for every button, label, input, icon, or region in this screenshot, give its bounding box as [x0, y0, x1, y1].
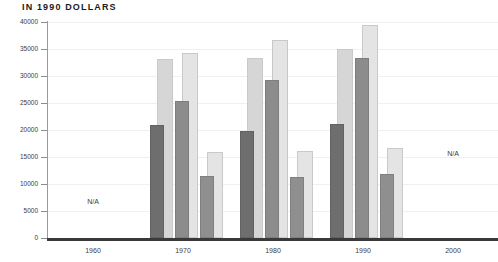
y-axis-tick-label: 35000 [0, 45, 38, 52]
chart-title: IN 1990 DOLLARS [22, 2, 117, 12]
bar-1980-pair-3-front [290, 177, 304, 238]
y-axis-tick-label: 0 [0, 234, 38, 241]
plot-area [48, 22, 498, 238]
na-label-1960: N/A [87, 198, 99, 205]
x-axis-label-1980: 1980 [265, 247, 281, 254]
bar-1980-pair-2-front [265, 80, 279, 238]
bar-1970-pair-3-front [200, 176, 214, 238]
x-axis-label-2000: 2000 [445, 247, 461, 254]
bar-1980-pair-1-front [240, 131, 254, 238]
bar-1970-pair-1-front [150, 125, 164, 238]
y-axis-tick-label: 40000 [0, 18, 38, 25]
na-label-2000: N/A [447, 150, 459, 157]
bar-1970-pair-2-front [175, 101, 189, 238]
y-axis-tick-label: 30000 [0, 72, 38, 79]
bar-1990-pair-1-front [330, 124, 344, 238]
x-axis-line [47, 238, 498, 241]
x-axis-label-1990: 1990 [355, 247, 371, 254]
x-axis-label-1960: 1960 [85, 247, 101, 254]
bar-1990-pair-3-front [380, 174, 394, 238]
y-axis-tick-label: 15000 [0, 153, 38, 160]
y-axis-tick-label: 5000 [0, 207, 38, 214]
chart-root: IN 1990 DOLLARS 050001000015000200002500… [0, 0, 498, 262]
y-axis-tick-label: 25000 [0, 99, 38, 106]
y-axis-tick-label: 20000 [0, 126, 38, 133]
x-axis-label-1970: 1970 [175, 247, 191, 254]
bar-1990-pair-2-front [355, 58, 369, 238]
y-axis-tick-label: 10000 [0, 180, 38, 187]
